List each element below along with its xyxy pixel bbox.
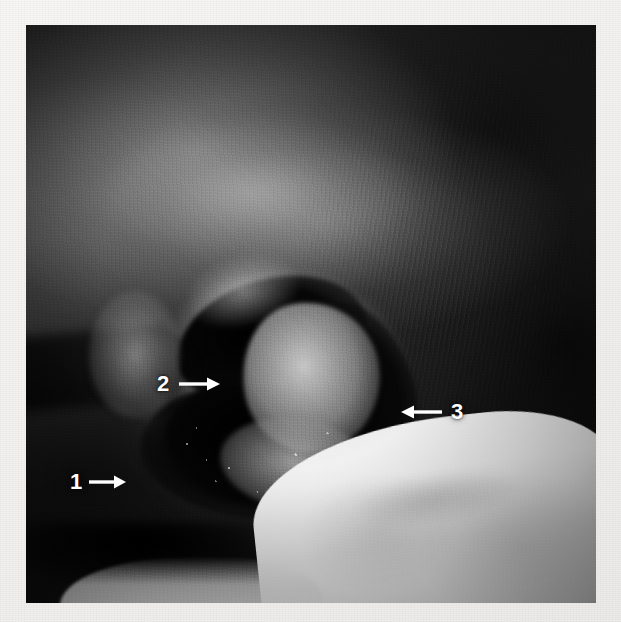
annotation-1-number: 1 <box>70 471 83 493</box>
wound-margin-rim <box>112 239 441 562</box>
annotation-3-number: 3 <box>451 401 464 423</box>
annotation-marker-3: 3 <box>400 401 464 423</box>
slough-tissue-upper <box>179 243 306 338</box>
necrotic-eschar-right <box>264 287 437 491</box>
surgical-drape <box>244 400 596 603</box>
arrow-right-icon <box>87 472 127 492</box>
annotation-2-number: 2 <box>157 373 170 395</box>
skin-highlight <box>49 94 482 291</box>
annotation-marker-2: 2 <box>157 373 221 395</box>
film-grain-texture <box>26 25 596 603</box>
wound-debris-speckle <box>117 279 436 545</box>
arrow-left-icon <box>400 402 444 422</box>
granulation-tissue-center <box>231 292 392 464</box>
slough-tissue-lower <box>215 411 372 518</box>
clinical-photograph <box>26 25 596 603</box>
limb-bottom-shadow <box>26 522 334 603</box>
figure-root: 1 2 3 <box>0 0 621 622</box>
annotation-marker-1: 1 <box>70 471 127 493</box>
surgical-drape-left-edge <box>60 557 322 603</box>
necrotic-eschar-left <box>106 326 197 418</box>
slough-tissue-left <box>89 291 180 418</box>
photo-vignette <box>26 25 596 603</box>
skin-fold-shadow <box>26 313 302 414</box>
arrow-right-icon <box>177 374 221 394</box>
necrotic-eschar-lower <box>135 375 383 530</box>
surgical-drape-fold <box>318 447 554 551</box>
skin-base-layer <box>26 25 596 603</box>
skin-striation-texture <box>300 37 596 453</box>
